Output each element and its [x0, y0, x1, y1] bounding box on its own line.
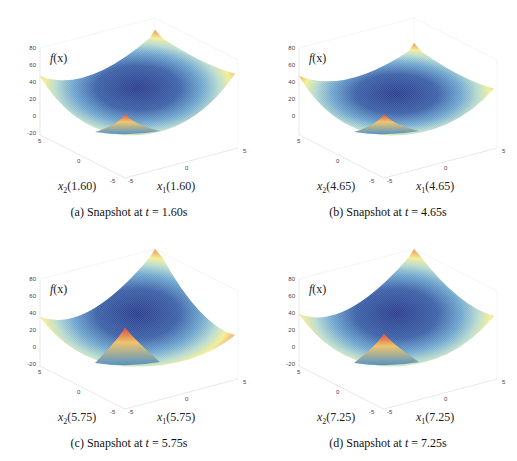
svg-text:40: 40: [29, 310, 36, 316]
z-axis-label: f(x): [309, 282, 326, 296]
svg-text:-5: -5: [387, 178, 393, 184]
svg-text:20: 20: [288, 327, 295, 333]
svg-text:5: 5: [502, 148, 506, 154]
svg-text:0: 0: [33, 113, 37, 119]
svg-text:-5: -5: [369, 409, 375, 415]
z-axis-ticks: 80 60 40 20 0 -20: [286, 276, 295, 367]
surface-plot: 80 60 40 20 0 -20 5 0 -5 -5 0 5: [0, 0, 258, 215]
svg-text:5: 5: [38, 369, 42, 375]
svg-text:40: 40: [29, 79, 36, 85]
svg-text:80: 80: [288, 45, 295, 51]
x2-axis-label: x2(1.60): [57, 179, 96, 195]
svg-text:5: 5: [38, 138, 42, 144]
svg-text:80: 80: [29, 45, 36, 51]
z-axis-label: f(x): [309, 51, 326, 65]
svg-text:60: 60: [29, 293, 36, 299]
x1-axis-label: x1(7.25): [415, 410, 454, 426]
x2-axis-ticks: 5 0 -5: [38, 369, 116, 415]
surface-plot-panel-b: 80 60 40 20 0 5 0 -5 -5 0 5: [259, 0, 517, 230]
z-axis-ticks: 80 60 40 20 0 -20: [27, 276, 36, 367]
svg-text:0: 0: [444, 396, 448, 402]
svg-text:0: 0: [77, 158, 81, 164]
svg-text:40: 40: [288, 79, 295, 85]
surface-plot: 80 60 40 20 0 -20 5 0 -5 -5 0 5: [259, 231, 517, 446]
svg-text:20: 20: [29, 327, 36, 333]
svg-text:0: 0: [336, 389, 340, 395]
z-axis-label: f(x): [50, 51, 67, 65]
subfigure-caption: (b) Snapshot at t = 4.65s: [259, 205, 517, 220]
surface-plot-panel-d: 80 60 40 20 0 -20 5 0 -5 -5 0 5: [259, 231, 517, 461]
svg-text:0: 0: [336, 158, 340, 164]
svg-text:5: 5: [297, 369, 301, 375]
subfigure-caption: (d) Snapshot at t = 7.25s: [259, 436, 517, 451]
svg-text:0: 0: [77, 389, 81, 395]
svg-text:0: 0: [185, 165, 189, 171]
svg-text:60: 60: [288, 62, 295, 68]
x1-axis-label: x1(4.65): [415, 179, 454, 195]
x1-axis-label: x1(1.60): [156, 179, 195, 195]
x2-axis-label: x2(5.75): [57, 410, 96, 426]
svg-text:5: 5: [243, 148, 247, 154]
svg-text:-20: -20: [27, 130, 36, 136]
svg-text:20: 20: [288, 96, 295, 102]
subfigure-caption: (a) Snapshot at t = 1.60s: [0, 205, 258, 220]
svg-text:0: 0: [292, 113, 296, 119]
svg-text:-5: -5: [128, 409, 134, 415]
x1-axis-label: x1(5.75): [156, 410, 195, 426]
x2-axis-ticks: 5 0 -5: [38, 138, 116, 184]
svg-text:60: 60: [288, 293, 295, 299]
svg-text:80: 80: [29, 276, 36, 282]
surface-plot-panel-a: 80 60 40 20 0 -20 5 0 -5 -5 0 5: [0, 0, 258, 230]
svg-text:-5: -5: [369, 178, 375, 184]
x2-axis-ticks: 5 0 -5: [297, 369, 375, 415]
svg-text:5: 5: [297, 138, 301, 144]
svg-text:40: 40: [288, 310, 295, 316]
svg-text:0: 0: [444, 165, 448, 171]
z-axis-ticks: 80 60 40 20 0: [288, 45, 295, 119]
svg-text:5: 5: [243, 379, 247, 385]
svg-text:-5: -5: [128, 178, 134, 184]
surface-plot: 80 60 40 20 0 5 0 -5 -5 0 5: [259, 0, 517, 215]
x2-axis-ticks: 5 0 -5: [297, 138, 375, 184]
x2-axis-label: x2(7.25): [316, 410, 355, 426]
svg-text:0: 0: [33, 344, 37, 350]
svg-text:-20: -20: [286, 361, 295, 367]
svg-text:0: 0: [185, 396, 189, 402]
svg-text:-5: -5: [110, 178, 116, 184]
z-axis-ticks: 80 60 40 20 0 -20: [27, 45, 36, 136]
subfigure-caption: (c) Snapshot at t = 5.75s: [0, 436, 258, 451]
svg-text:5: 5: [502, 379, 506, 385]
svg-text:-5: -5: [387, 409, 393, 415]
surface-plot-panel-c: 80 60 40 20 0 -20 5 0 -5 -5 0 5: [0, 231, 258, 461]
x2-axis-label: x2(4.65): [316, 179, 355, 195]
svg-text:-20: -20: [27, 361, 36, 367]
svg-text:60: 60: [29, 62, 36, 68]
surface-plot: 80 60 40 20 0 -20 5 0 -5 -5 0 5: [0, 231, 258, 446]
z-axis-label: f(x): [50, 282, 67, 296]
svg-text:80: 80: [288, 276, 295, 282]
svg-text:-5: -5: [110, 409, 116, 415]
svg-text:0: 0: [292, 344, 296, 350]
svg-text:20: 20: [29, 96, 36, 102]
